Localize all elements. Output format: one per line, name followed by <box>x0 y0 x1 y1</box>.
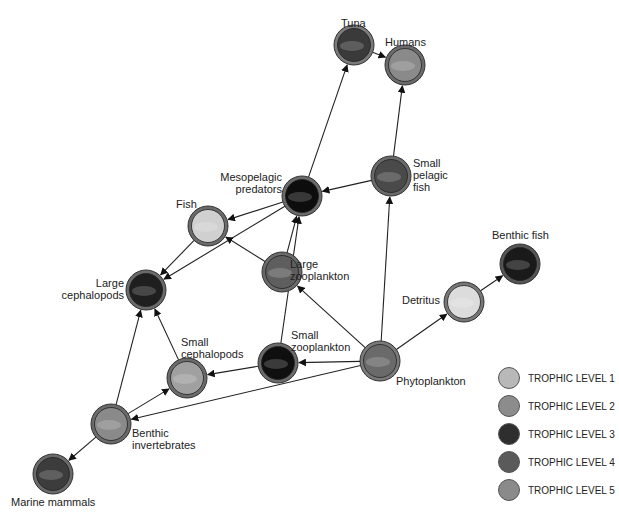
node-fish <box>188 206 228 246</box>
edge-small_cephalopods-to-large_cephalopods <box>155 309 179 360</box>
edge-benthic_invertebrates-to-marine_mammals <box>69 437 96 460</box>
edge-mesopelagic_predators-to-fish <box>228 202 283 220</box>
legend-swatch <box>498 367 520 389</box>
label-benthic-invertebrates: Benthic invertebrates <box>132 427 196 451</box>
edge-fish-to-large_cephalopods <box>161 240 194 275</box>
edge-mesopelagic_predators-to-tuna <box>309 65 348 177</box>
node-benthic-fish <box>500 244 540 284</box>
label-mesopelagic-predators: Mesopelagic predators <box>210 171 282 195</box>
legend-item-level-2: TROPHIC LEVEL 2 <box>498 395 615 417</box>
label-tuna: Tuna <box>341 17 366 29</box>
edge-large_zooplankton-to-fish <box>226 237 265 261</box>
legend-item-level-4: TROPHIC LEVEL 4 <box>498 451 615 473</box>
legend-item-level-1: TROPHIC LEVEL 1 <box>498 367 615 389</box>
food-web-diagram: Tuna Humans Small pelagic fish Mesopelag… <box>0 0 619 521</box>
node-small-cephalopods <box>167 358 207 398</box>
label-small-cephalopods: Small cephalopods <box>181 336 243 360</box>
legend-swatch <box>498 423 520 445</box>
edge-tuna-to-humans <box>373 52 386 57</box>
edge-detritus-to-benthic_fish <box>481 276 503 291</box>
label-humans: Humans <box>385 36 426 48</box>
edge-phytoplankton-to-small_pelagic_fish <box>381 197 390 341</box>
label-small-pelagic-fish: Small pelagic fish <box>413 157 448 193</box>
legend-swatch <box>498 395 520 417</box>
label-phytoplankton: Phytoplankton <box>396 375 466 387</box>
edge-large_zooplankton-to-mesopelagic_predators <box>287 216 297 252</box>
label-large-cephalopods: Large cephalopods <box>60 277 124 301</box>
node-detritus <box>444 282 484 322</box>
nodes <box>33 25 540 494</box>
label-marine-mammals: Marine mammals <box>11 496 95 508</box>
edge-phytoplankton-to-small_zooplankton <box>299 361 360 362</box>
legend-swatch <box>498 479 520 501</box>
node-mesopelagic-predators <box>282 176 322 216</box>
edge-small_pelagic_fish-to-mesopelagic_predators <box>322 180 371 191</box>
edge-small_zooplankton-to-small_cephalopods <box>208 366 259 374</box>
edge-benthic_invertebrates-to-large_cephalopods <box>116 310 141 404</box>
node-small-pelagic-fish <box>371 156 411 196</box>
edge-benthic_invertebrates-to-small_cephalopods <box>128 389 169 414</box>
legend-swatch <box>498 451 520 473</box>
edge-small_pelagic_fish-to-humans <box>394 86 403 156</box>
label-detritus: Detritus <box>402 294 440 306</box>
label-benthic-fish: Benthic fish <box>492 229 549 241</box>
label-small-zooplankton: Small zooplankton <box>291 329 350 353</box>
edge-phytoplankton-to-benthic_invertebrates <box>131 366 360 420</box>
legend-item-level-3: TROPHIC LEVEL 3 <box>498 423 615 445</box>
label-large-zooplankton: Large zooplankton <box>290 258 349 282</box>
node-phytoplankton <box>360 341 400 381</box>
node-humans <box>385 45 425 85</box>
node-large-cephalopods <box>126 270 166 310</box>
edge-phytoplankton-to-detritus <box>396 314 446 349</box>
node-tuna <box>334 25 374 65</box>
label-fish: Fish <box>176 198 197 210</box>
node-marine-mammals <box>33 454 73 494</box>
legend-item-level-5: TROPHIC LEVEL 5 <box>498 479 615 501</box>
node-benthic-invertebrates <box>91 404 131 444</box>
